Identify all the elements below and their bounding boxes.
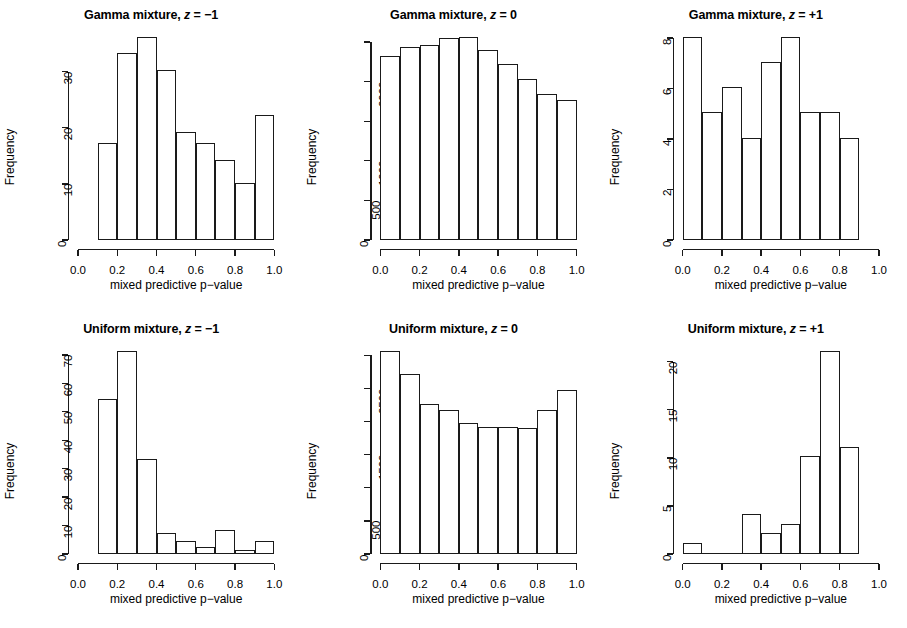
histogram-bar (781, 524, 801, 554)
x-axis-line (78, 563, 274, 564)
x-axis-tick (839, 250, 840, 256)
y-axis-tick-label: 50 (63, 412, 75, 425)
x-axis-line (683, 563, 879, 564)
histogram-bar (781, 37, 801, 240)
histogram-bar (820, 112, 840, 240)
x-axis-tick (760, 250, 761, 256)
histogram-baseline (98, 553, 275, 554)
y-axis-tick (364, 487, 370, 488)
x-axis-tick (800, 564, 801, 570)
x-axis-tick (497, 250, 498, 256)
histogram-bar (400, 374, 420, 554)
histogram-baseline (98, 239, 275, 240)
x-axis-tick-label: 1.0 (266, 264, 282, 276)
histogram-bar (196, 143, 216, 240)
x-axis-tick-label: 0.6 (188, 264, 204, 276)
x-axis-tick (195, 564, 196, 570)
y-axis-label: Frequency (608, 129, 622, 186)
x-axis-tick (760, 564, 761, 570)
histogram-bar (498, 64, 518, 240)
x-axis-tick-label: 0.0 (675, 264, 691, 276)
histogram-bar (537, 94, 557, 240)
x-axis-tick (721, 250, 722, 256)
panel-title-prefix: Uniform mixture, (389, 322, 491, 336)
histogram-panel: Gamma mixture, z = −1Frequency01020300.0… (0, 0, 302, 314)
histogram-bar (400, 47, 420, 240)
y-axis-tick-label: 10 (668, 458, 680, 471)
histogram-bar (702, 112, 722, 240)
y-axis-tick-label: 10 (63, 184, 75, 197)
x-axis-tick-label: 0.8 (832, 578, 848, 590)
histogram-bar (840, 447, 860, 554)
x-axis-tick-label: 0.2 (412, 264, 428, 276)
y-axis-label: Frequency (608, 443, 622, 500)
histogram-bar (380, 56, 400, 240)
panel-title-prefix: Gamma mixture, (390, 8, 490, 22)
panel-title-suffix: = +1 (796, 322, 824, 336)
x-axis-tick-label: 0.2 (714, 264, 730, 276)
x-axis-tick (77, 250, 78, 256)
panel-title: Uniform mixture, z = +1 (605, 322, 907, 336)
x-axis-tick-label: 0.0 (675, 578, 691, 590)
histogram-bar (761, 62, 781, 240)
histogram-bar (157, 533, 177, 554)
histogram-bar (537, 410, 557, 554)
histogram-bar (840, 138, 860, 240)
x-axis-tick (878, 564, 879, 570)
x-axis-tick (419, 564, 420, 570)
y-axis-tick (364, 520, 370, 521)
panel-title-suffix: = −1 (190, 8, 218, 22)
y-axis-tick-label: 0 (661, 240, 673, 246)
y-axis-tick-label: 0 (57, 240, 69, 246)
y-axis-tick-label: 5 (661, 506, 673, 512)
y-axis-tick (364, 388, 370, 389)
histogram-bars (380, 352, 576, 554)
x-axis-tick-label: 0.2 (109, 578, 125, 590)
x-axis-tick (380, 250, 381, 256)
y-axis-tick-label: 40 (63, 440, 75, 453)
histogram-bar (683, 37, 703, 240)
y-axis-tick-label: 2 (661, 190, 673, 196)
histogram-bar (518, 428, 538, 554)
histogram-bar (459, 423, 479, 554)
histogram-bar (117, 351, 137, 554)
x-axis-label: mixed predictive p−value (78, 278, 274, 292)
x-axis-tick-label: 0.4 (753, 578, 769, 590)
histogram-bar (478, 50, 498, 240)
histogram-bars (380, 38, 576, 240)
x-axis-line (683, 249, 879, 250)
x-axis-line (78, 249, 274, 250)
histogram-bar (722, 87, 742, 240)
histogram-baseline (380, 239, 576, 240)
histogram-bar (176, 132, 196, 240)
y-axis-tick (364, 421, 370, 422)
histogram-panel: Gamma mixture, z = 0Frequency05001000200… (302, 0, 604, 314)
x-axis-tick (195, 250, 196, 256)
panel-title-prefix: Uniform mixture, (83, 322, 185, 336)
x-axis-tick (117, 564, 118, 570)
y-axis-tick-label: 8 (661, 38, 673, 44)
x-axis-tick-label: 0.8 (529, 264, 545, 276)
panel-title: Uniform mixture, z = 0 (302, 322, 604, 336)
x-axis-line (380, 563, 576, 564)
y-axis-tick-label: 60 (63, 383, 75, 396)
histogram-bar (137, 459, 157, 554)
x-axis-tick-label: 0.2 (714, 578, 730, 590)
y-axis-tick-label: 20 (63, 128, 75, 141)
y-axis-tick-label: 30 (63, 469, 75, 482)
x-axis-tick (234, 250, 235, 256)
histogram-bar (439, 410, 459, 554)
x-axis-tick (419, 250, 420, 256)
panel-title-prefix: Uniform mixture, (688, 322, 790, 336)
histogram-bar (518, 79, 538, 240)
x-axis-tick-label: 0.6 (490, 264, 506, 276)
histogram-bar (255, 115, 275, 240)
histogram-bar (742, 514, 762, 554)
histogram-bar (157, 70, 177, 240)
x-axis-tick-label: 1.0 (871, 264, 887, 276)
histogram-bar (742, 138, 762, 240)
x-axis-tick (878, 250, 879, 256)
panel-title: Gamma mixture, z = 0 (302, 8, 604, 22)
x-axis-label: mixed predictive p−value (380, 278, 576, 292)
x-axis-tick (380, 564, 381, 570)
